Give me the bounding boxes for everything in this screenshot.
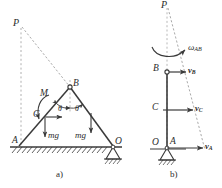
figure-vector-graphics (0, 0, 222, 188)
pb-dashed-line (22, 27, 70, 87)
pin-support-a-hatching-b (159, 160, 175, 165)
label-theta-left: θ (58, 105, 62, 113)
velocity-distribution-dashed-line (168, 8, 205, 150)
label-va-sub: A (209, 145, 213, 151)
label-o-panel-b: O (152, 138, 159, 148)
panel-a-graphics (10, 27, 122, 164)
label-p-panel-b: P (161, 0, 167, 10)
mechanics-figure: P B C A O M θ θ mg mg a) P ωAB B vB C vC… (0, 0, 222, 188)
label-omega-ab-sub: AB (194, 46, 201, 52)
label-a-panel-a: A (12, 136, 18, 146)
label-b-panel-a: B (73, 79, 79, 89)
joint-b (68, 85, 72, 89)
label-c-panel-b: C (152, 103, 158, 113)
label-b-panel-b: B (153, 64, 159, 74)
label-weight-right-mg: mg (75, 131, 86, 140)
label-p-panel-a: P (13, 18, 19, 28)
label-o-panel-a: O (115, 137, 122, 147)
label-velocity-va: vA (205, 142, 213, 152)
ground-hatching (12, 147, 107, 153)
omega-ab-curved-arrow (152, 47, 185, 56)
joint-b-panel-b (165, 70, 169, 74)
label-c-panel-a: C (33, 110, 39, 120)
label-weight-left-mg: mg (48, 131, 59, 140)
caption-panel-b: b) (170, 169, 178, 179)
label-vc-sub: C (199, 107, 203, 113)
pin-support-o-hatching (105, 159, 121, 164)
label-velocity-vb: vB (188, 66, 196, 76)
moment-arrow-m (38, 95, 49, 119)
label-vb-sub: B (192, 69, 196, 75)
caption-panel-a: a) (56, 169, 63, 179)
label-a-panel-b: A (170, 137, 176, 147)
label-velocity-vc: vC (195, 104, 203, 114)
label-theta-right: θ (75, 105, 79, 113)
label-moment-m: M (40, 89, 48, 99)
label-omega-ab: ωAB (188, 43, 202, 52)
